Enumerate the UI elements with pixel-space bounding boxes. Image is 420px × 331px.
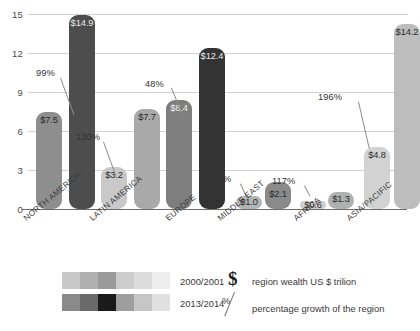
bar-value-ap-old: $4.8	[368, 150, 386, 160]
bar-asia-pacific-2013[interactable]: $14.2	[394, 24, 420, 209]
bar-europe-2013[interactable]: $12.4	[199, 48, 225, 209]
y-tick-6: 6	[18, 126, 23, 137]
pct-africa: 117%	[272, 176, 296, 186]
bar-value-af-new: $1.3	[332, 194, 350, 204]
legend-label-2013: 2013/2014	[180, 298, 224, 309]
bar-value-eu-new: $12.4	[201, 51, 224, 61]
legend-note-growth: percentage growth of the region	[252, 303, 384, 314]
bar-value-ap-new: $14.2	[396, 27, 419, 37]
pct-middle-east: 110%	[208, 174, 232, 184]
y-tick-15: 15	[12, 9, 23, 20]
bar-value-na-old: $7.5	[40, 115, 58, 125]
legend-swatch-2000	[62, 272, 170, 289]
legend-note-wealth: region wealth US $ trilion	[252, 276, 356, 287]
x-axis-line	[22, 209, 407, 210]
y-tick-9: 9	[18, 87, 23, 98]
pct-asia-pacific: 196%	[318, 92, 342, 102]
leader-line-asia-pacific	[358, 102, 370, 149]
plot-area: 15 12 9 6 3 0 $7.5 $14.9 99% $3.2 $7.7 1…	[28, 14, 408, 209]
y-tick-3: 3	[18, 165, 23, 176]
chart-legend: 2000/2001 2013/2014 $ region wealth US $…	[0, 263, 419, 331]
y-tick-0: 0	[18, 204, 23, 215]
bar-africa-2013[interactable]: $1.3	[328, 192, 354, 209]
bar-value-la-new: $7.7	[138, 112, 156, 122]
dollar-symbol-icon: $	[228, 268, 238, 290]
bar-value-na-new: $14.9	[71, 18, 94, 28]
bar-latin-america-2013[interactable]: $7.7	[134, 109, 160, 209]
leader-line-africa	[304, 186, 311, 197]
pct-europe: 48%	[145, 79, 164, 89]
legend-swatch-2013	[62, 294, 170, 311]
pct-north-america: 99%	[36, 68, 55, 78]
bar-value-me-new: $2.1	[269, 189, 287, 199]
y-tick-12: 12	[12, 48, 23, 59]
bar-europe-2000[interactable]: $8.4	[166, 100, 192, 209]
pct-latin-america: 130%	[76, 132, 100, 142]
legend-label-2000: 2000/2001	[180, 276, 224, 287]
